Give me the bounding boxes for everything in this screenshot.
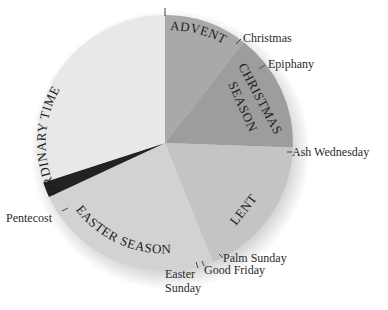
annotation-good-friday: Good Friday xyxy=(204,263,265,277)
pie-slices xyxy=(37,15,293,271)
annotation-pentecost: Pentecost xyxy=(6,211,53,225)
annotation-christmas: Christmas xyxy=(243,31,292,45)
annotation-easter-sunday-2: Sunday xyxy=(165,281,201,295)
annotation-epiphany: Epiphany xyxy=(268,57,314,71)
annotation-ash-wednesday: Ash Wednesday xyxy=(292,145,369,159)
liturgical-year-pie-chart: ORDINARY TIME ADVENT EASTER SEASON CHRIS… xyxy=(0,0,388,310)
annotation-easter-sunday-1: Easter xyxy=(165,267,195,281)
